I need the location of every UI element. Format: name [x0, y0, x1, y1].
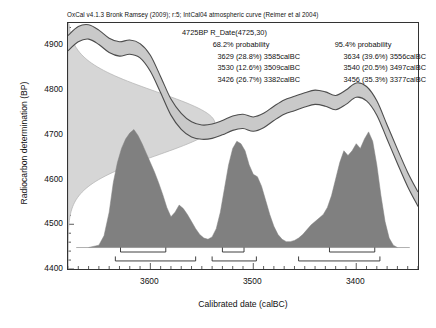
posterior-distribution [89, 130, 398, 248]
stats-header-95: 95.4% probability [300, 39, 426, 50]
stats-row: 3530 (12.6%) 3509calBC3540 (20.5%) 3497c… [182, 62, 426, 73]
y-tick-4500: 4500 [44, 218, 63, 228]
range-95-3: 3456 (35.3%) 3377calBC [300, 74, 426, 85]
y-axis-tick-labels: 440045004600470048004900 [0, 0, 63, 328]
y-tick-4800: 4800 [44, 84, 63, 94]
stats-headers: 68.2% probability95.4% probability [182, 39, 426, 50]
range-95-1: 3634 (39.6%) 3556calBC [300, 51, 426, 62]
y-axis-title: Radiocarbon determination (BP) [19, 43, 29, 243]
range-bracket-68.2-3530-3509 [222, 248, 244, 253]
range-bracket-95.4-3456-3377 [299, 256, 380, 261]
y-tick-4600: 4600 [44, 174, 63, 184]
stats-title: 4725BP R_Date(4725,30) [182, 27, 426, 38]
range-68-3: 3426 (26.7%) 3382calBC [182, 74, 300, 85]
oxcal-credit-line: OxCal v4.1.3 Bronk Ramsey (2009); r:5; I… [67, 11, 318, 18]
probability-statistics-block: 4725BP R_Date(4725,30) 68.2% probability… [182, 27, 426, 85]
x-tick-3400: 3400 [346, 276, 365, 286]
y-tick-4900: 4900 [44, 39, 63, 49]
x-tick-3500: 3500 [243, 276, 262, 286]
range-68-1: 3629 (28.8%) 3585calBC [182, 51, 300, 62]
stats-header-68: 68.2% probability [182, 39, 300, 50]
stats-row: 3426 (26.7%) 3382calBC3456 (35.3%) 3377c… [182, 74, 426, 85]
y-tick-4400: 4400 [44, 263, 63, 273]
x-tick-3600: 3600 [140, 276, 159, 286]
range-bracket-68.2-3629-3585 [121, 248, 166, 253]
range-95-2: 3540 (20.5%) 3497calBC [300, 62, 426, 73]
range-68-2: 3530 (12.6%) 3509calBC [182, 62, 300, 73]
radiocarbon-calibration-figure: OxCal v4.1.3 Bronk Ramsey (2009); r:5; I… [0, 0, 436, 328]
stats-row: 3629 (28.8%) 3585calBC3634 (39.6%) 3556c… [182, 51, 426, 62]
range-bracket-95.4-3540-3497 [212, 256, 256, 261]
range-bracket-68.2-3426-3382 [329, 248, 374, 253]
range-bracket-95.4-3634-3556 [115, 256, 195, 261]
y-tick-4700: 4700 [44, 129, 63, 139]
x-axis-title: Calibrated date (calBC) [67, 299, 419, 309]
